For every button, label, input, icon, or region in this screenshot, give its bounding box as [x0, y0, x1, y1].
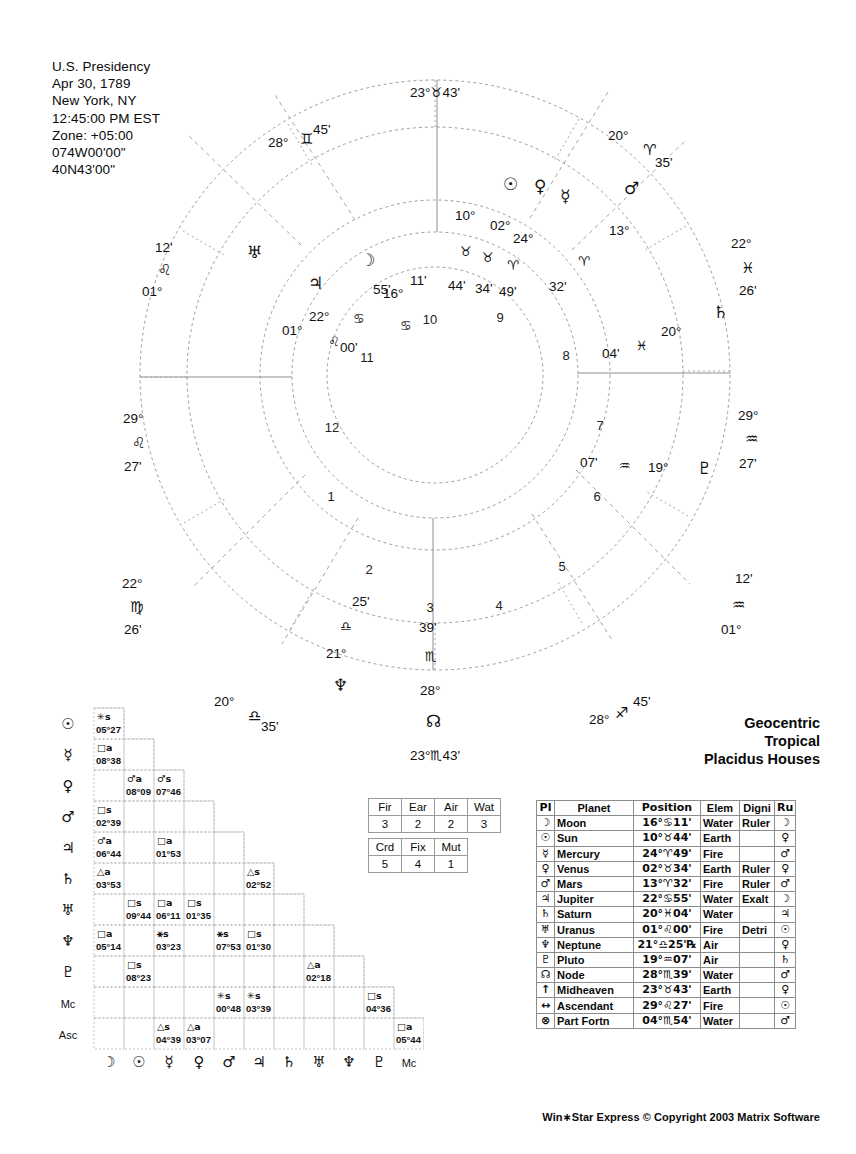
- aspect-symbol: □s: [97, 804, 112, 815]
- aspect-grid-row-labels: ☉☿♀♂♃♄♅♆♇McAsc: [59, 715, 78, 1041]
- chart-type-houses: Placidus Houses: [704, 750, 820, 768]
- planet-element: Earth: [701, 983, 740, 998]
- mode-header-mutable: Mut: [435, 839, 468, 856]
- planet-position: 19°♒07': [634, 952, 701, 967]
- cusp-label-5: 28° ♐ 45': [589, 694, 651, 727]
- planet-venus-wheel: ♀ 02° ♉ 34': [475, 176, 546, 296]
- planet-row-jupiter: ♃Jupiter22°♋55'WaterExalt☽: [537, 892, 796, 907]
- cusp-5-sign: ♐: [615, 704, 628, 722]
- cusp-6-sign: ♒: [732, 596, 745, 614]
- natal-chart-wheel: .ring{fill:none;stroke:#8e8e8e;stroke-wi…: [100, 40, 840, 780]
- planet-element: Earth: [701, 831, 740, 846]
- wheel-zodiac-inner-ring: [187, 127, 683, 623]
- planet-name: Moon: [555, 816, 634, 831]
- mars-glyph: ♂: [624, 178, 639, 198]
- aspect-row-label: ♃: [61, 839, 74, 857]
- planet-ruler: ♂: [775, 846, 796, 861]
- aspect-cell: [184, 925, 214, 956]
- cusp-1-deg: 29°: [123, 411, 143, 426]
- planet-element: Water: [701, 1013, 740, 1028]
- aspect-grid-diagonal: [214, 832, 244, 863]
- aspect-grid: ✳s05°27□a08°38♂a08°09♂s07°46□s02°39♂a06°…: [44, 706, 424, 1102]
- node-deg: 28°: [420, 683, 440, 698]
- aspect-orb: 03°39: [246, 1003, 271, 1014]
- cusp-8-sign: ♓: [741, 259, 754, 277]
- zodiac-division-ticks: [140, 80, 730, 670]
- cusp-5-deg: 28°: [589, 712, 609, 727]
- cusp-7-min: 27': [739, 456, 757, 471]
- aspect-cell: [124, 832, 154, 863]
- elem-value-air: 2: [435, 816, 468, 833]
- moon-min: 11': [410, 273, 427, 288]
- planet-ruler: ♄: [775, 952, 796, 967]
- planet-name: Sun: [555, 831, 634, 846]
- aspect-orb: 01°30: [246, 941, 271, 952]
- cusp-12-deg: 01°: [142, 284, 162, 299]
- moon-glyph: ☽: [360, 250, 375, 270]
- planet-glyph: ☉: [537, 831, 555, 846]
- aspect-cell: [124, 1018, 154, 1049]
- aspect-cell: [124, 925, 154, 956]
- cusp-7-deg: 29°: [738, 408, 758, 423]
- uranus-deg: 01°: [282, 323, 302, 338]
- house-number-1: 1: [327, 489, 334, 504]
- sun-deg: 10°: [455, 208, 475, 223]
- aspect-cell: [334, 987, 364, 1018]
- planet-name: Mercury: [555, 846, 634, 861]
- planet-ruler: ☉: [775, 998, 796, 1013]
- cusp-1-sign: ♌: [132, 434, 145, 452]
- aspect-row-label: ♄: [61, 870, 74, 888]
- aspect-col-label: ♃: [252, 1053, 265, 1071]
- aspect-cell: [274, 925, 304, 956]
- house-number-12: 12: [325, 420, 339, 435]
- aspect-row-label: ♆: [61, 932, 74, 950]
- planet-name: Ascendant: [555, 998, 634, 1013]
- planet-ruler: ☽: [775, 816, 796, 831]
- planet-element: Water: [701, 907, 740, 922]
- jupiter-min: 55': [373, 282, 391, 297]
- col-header-ru: Ru: [775, 801, 796, 816]
- wheel-inner-ring: [292, 232, 578, 518]
- col-header-position: Position: [634, 801, 701, 816]
- planet-position: 24°♈49': [634, 846, 701, 861]
- aspect-symbol: □s: [367, 990, 382, 1001]
- planet-dignity: [740, 1013, 775, 1028]
- mars-sign: ♈: [578, 254, 590, 269]
- aspect-symbol: △a: [97, 866, 111, 877]
- planet-position: 28°♏39': [634, 968, 701, 983]
- aspect-cell: [94, 987, 124, 1018]
- aspect-orb: 03°53: [96, 879, 121, 890]
- aspect-symbol: ⚹s: [217, 928, 229, 939]
- aspect-row-label: ☉: [61, 715, 74, 733]
- aspect-symbol: ✳s: [217, 990, 231, 1001]
- planet-dignity: Ruler: [740, 861, 775, 876]
- aspect-cell: [184, 801, 214, 832]
- aspect-cell: [304, 925, 334, 956]
- aspect-cell: [244, 1018, 274, 1049]
- mercury-sign: ♈: [507, 258, 519, 273]
- aspect-col-label: ♅: [312, 1053, 325, 1071]
- planet-dignity: [740, 952, 775, 967]
- aspect-col-label: ☉: [132, 1053, 145, 1071]
- cusp-label-2: 22° ♍ 26': [122, 576, 143, 637]
- planet-glyph: ⊗: [537, 1013, 555, 1028]
- aspect-grid-diagonal: [274, 894, 304, 925]
- planet-dignity: Ruler: [740, 816, 775, 831]
- planet-row-part-fortn: ⊗Part Fortn04°♏54'Water♂: [537, 1013, 796, 1028]
- mercury-deg: 24°: [513, 231, 533, 246]
- aspect-cell: [94, 1018, 124, 1049]
- planet-element: Water: [701, 968, 740, 983]
- planet-glyph: ♅: [537, 922, 555, 937]
- aspect-cell: [214, 956, 244, 987]
- planet-glyph: ☿: [537, 846, 555, 861]
- planet-row-moon: ☽Moon16°♋11'WaterRuler☽: [537, 816, 796, 831]
- wheel-outer-ring: [140, 80, 730, 670]
- aspect-cell: [304, 987, 334, 1018]
- aspect-cell: [274, 987, 304, 1018]
- planet-dignity: [740, 998, 775, 1013]
- pluto-sign: ♒: [619, 458, 631, 473]
- neptune-sign: ♎: [340, 619, 352, 634]
- aspect-cell: [274, 956, 304, 987]
- planet-name: Part Fortn: [555, 1013, 634, 1028]
- planet-glyph: ☊: [537, 968, 555, 983]
